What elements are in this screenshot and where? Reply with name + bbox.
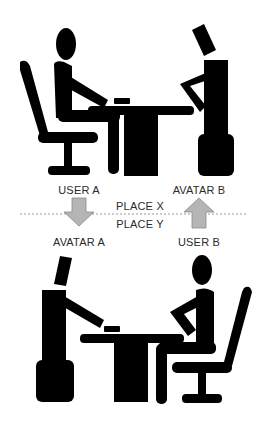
avatar-a-robot: [36, 256, 104, 402]
top-scene: [20, 24, 234, 176]
label-place-x: PLACE X: [116, 200, 164, 212]
bottom-scene: [36, 255, 252, 404]
label-user-a: USER A: [58, 184, 100, 196]
table-bottom: [80, 326, 184, 402]
avatar-b-robot: [180, 24, 234, 176]
user-b-figure: [156, 255, 216, 404]
arrow-down-icon: [64, 198, 94, 226]
table-top: [88, 98, 194, 176]
label-place-y: PLACE Y: [116, 218, 164, 230]
user-a-figure: [54, 28, 120, 174]
label-avatar-a: AVATAR A: [53, 236, 105, 248]
label-avatar-b: AVATAR B: [173, 184, 226, 196]
arrow-up-icon: [184, 198, 214, 228]
label-user-b: USER B: [178, 236, 220, 248]
